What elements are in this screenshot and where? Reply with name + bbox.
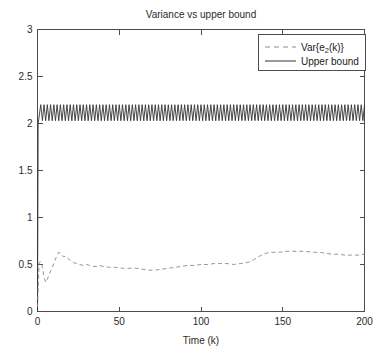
x-tick-label: 150 (274, 316, 291, 327)
x-tick-label: 100 (193, 316, 210, 327)
x-tick-label: 50 (114, 316, 126, 327)
y-tick-label: 1.5 (19, 165, 33, 176)
x-tick-label: 0 (35, 316, 41, 327)
y-tick-label: 3 (27, 24, 33, 35)
y-tick-label: 0.5 (19, 259, 33, 270)
y-tick-label: 2 (27, 118, 33, 129)
chart-figure: Variance vs upper bound 00.511.522.53 05… (0, 0, 390, 358)
y-tick-label: 0 (27, 306, 33, 317)
legend-label-upper-bound: Upper bound (301, 56, 359, 67)
chart-title: Variance vs upper bound (146, 9, 256, 20)
variance-vs-upper-bound-chart: Variance vs upper bound 00.511.522.53 05… (0, 0, 390, 358)
x-tick-label: 200 (356, 316, 373, 327)
y-tick-label: 2.5 (19, 71, 33, 82)
chart-legend[interactable]: Var{e2(k)} Upper bound (259, 35, 366, 71)
x-axis-label: Time (k) (183, 335, 219, 346)
y-tick-label: 1 (27, 212, 33, 223)
